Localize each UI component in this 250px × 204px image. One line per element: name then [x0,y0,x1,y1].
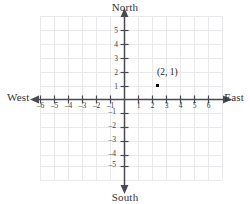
x-tick-label-6: 6 [202,101,216,110]
y-tick-label-neg1: –1 [102,107,116,116]
x-tick-label-3: 3 [160,101,174,110]
y-tick-label-neg2: –2 [102,121,116,130]
x-tick-label-1: 1 [132,101,146,110]
x-tick-label-neg4: –4 [62,101,76,110]
x-tick-label-4: 4 [174,101,188,110]
coordinate-plane: North South West East –6 –5 –4 –3 –2 –1 … [0,0,250,204]
x-tick-label-neg6: –6 [34,101,48,110]
y-tick-label-5: 5 [104,26,118,35]
x-tick-label-neg5: –5 [48,101,62,110]
y-tick-label-3: 3 [104,54,118,63]
y-tick-label-1: 1 [104,82,118,91]
y-axis [121,8,129,194]
x-tick-label-5: 5 [188,101,202,110]
west-label: West [7,91,30,103]
y-tick-label-2: 2 [104,68,118,77]
y-tick-label-neg5: –5 [102,160,116,169]
y-tick-label-neg3: –3 [102,135,116,144]
north-label: North [0,1,250,13]
y-tick-label-4: 4 [104,40,118,49]
south-label: South [0,191,250,203]
east-label: East [224,91,244,103]
plotted-point-label: (2, 1) [157,67,178,77]
x-tick-label-2: 2 [146,101,160,110]
grid-lines [40,16,223,181]
x-tick-label-neg3: –3 [76,101,90,110]
y-tick-label-neg4: –4 [102,149,116,158]
plotted-point-marker [156,84,159,87]
